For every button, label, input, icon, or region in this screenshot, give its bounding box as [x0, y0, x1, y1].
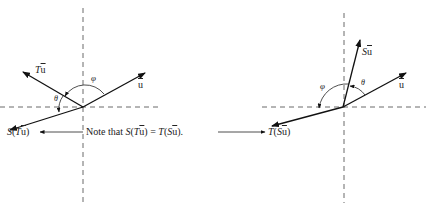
left-phi-arc: [65, 85, 104, 96]
right-u-vector: [343, 73, 406, 107]
note-text: Note that S(Tu) = T(Su).: [86, 127, 183, 137]
left-theta-label: θ: [54, 94, 58, 104]
left-Tu-vector: [23, 72, 83, 107]
right-Su-label: Su: [362, 47, 372, 57]
right-TSu-vector: [272, 107, 343, 126]
left-u-label: u: [138, 80, 143, 90]
paren-close: ): [287, 126, 290, 137]
right-phi-label: φ: [320, 81, 325, 91]
right-u-label: u: [399, 80, 404, 90]
left-Tu-label: Tu: [35, 65, 46, 75]
right-Su-vector: [343, 40, 360, 107]
left-theta-arc: [59, 96, 63, 112]
vector-diagram: [0, 0, 426, 208]
left-STu-label: S(Tu): [7, 127, 29, 137]
left-phi-label: φ: [91, 73, 96, 83]
left-panel: [0, 8, 158, 203]
u-symbol: u: [138, 79, 143, 90]
paren-close: ): [26, 126, 29, 137]
paren-close: ).: [177, 126, 183, 137]
right-TSu-label: T(Su): [268, 127, 290, 137]
u-symbol: u: [399, 79, 404, 90]
right-panel: [218, 13, 426, 203]
u-symbol: u: [367, 46, 372, 57]
note-prefix: Note that: [86, 126, 125, 137]
right-theta-label: θ: [361, 78, 365, 88]
u-symbol: u: [41, 64, 46, 75]
equals-sign: =: [148, 126, 159, 137]
